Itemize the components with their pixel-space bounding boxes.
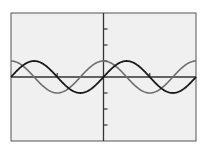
function-plot [0, 0, 210, 151]
